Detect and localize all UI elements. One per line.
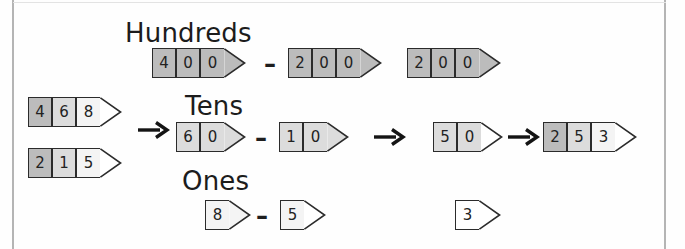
page-edge-right [664, 0, 666, 249]
card-cells: 2 0 0 [288, 48, 360, 78]
label-hundreds: Hundreds [125, 20, 252, 46]
digit-cell: 5 [567, 122, 591, 152]
card-hundreds-200: 2 0 0 [288, 48, 382, 78]
card-cells: 8 [205, 200, 229, 230]
arrow-split-icon [136, 118, 170, 142]
digit-cell: 0 [431, 48, 455, 78]
digit-cell: 8 [205, 200, 229, 230]
digit-cell: 0 [336, 48, 360, 78]
digit-cell: 5 [433, 122, 457, 152]
digit-cell: 6 [176, 122, 200, 152]
digit-cell: 1 [52, 148, 76, 178]
digit-cell: 5 [76, 148, 100, 178]
digit-cell: 0 [455, 48, 479, 78]
digit-cell: 0 [200, 122, 224, 152]
card-ones-8: 8 [205, 200, 251, 230]
digit-cell: 2 [543, 122, 567, 152]
digit-cell: 4 [152, 48, 176, 78]
card-arrow-tip [100, 148, 122, 178]
card-arrow-tip [224, 48, 246, 78]
card-subtrahend-215: 2 1 5 [28, 148, 122, 178]
card-cells: 4 0 0 [152, 48, 224, 78]
digit-cell: 5 [280, 200, 304, 230]
digit-cell: 0 [303, 122, 327, 152]
card-arrow-tip [100, 97, 122, 127]
page-edge-top [13, 2, 666, 3]
card-tens-10: 1 0 [279, 122, 349, 152]
digit-cell: 8 [76, 97, 100, 127]
digit-cell: 2 [407, 48, 431, 78]
card-cells: 4 6 8 [28, 97, 100, 127]
digit-cell: 1 [279, 122, 303, 152]
operator-minus-hundreds: – [264, 52, 276, 76]
card-arrow-tip [360, 48, 382, 78]
card-cells: 1 0 [279, 122, 327, 152]
card-hundreds-400: 4 0 0 [152, 48, 246, 78]
operator-minus-ones: – [256, 204, 268, 228]
card-tens-result-50: 5 0 [433, 122, 503, 152]
card-arrow-tip [304, 200, 326, 230]
card-arrow-tip [229, 200, 251, 230]
card-ones-result-3: 3 [455, 200, 501, 230]
card-tens-60: 6 0 [176, 122, 246, 152]
digit-cell: 2 [288, 48, 312, 78]
place-value-subtraction-diagram: Hundreds Tens Ones 4 6 8 2 1 5 4 [0, 0, 685, 249]
arrow-tens-to-result-icon [372, 125, 406, 149]
digit-cell: 3 [591, 122, 615, 152]
digit-cell: 6 [52, 97, 76, 127]
label-ones: Ones [182, 168, 249, 194]
digit-cell: 0 [457, 122, 481, 152]
card-arrow-tip [481, 122, 503, 152]
card-arrow-tip [615, 122, 637, 152]
card-cells: 2 5 3 [543, 122, 615, 152]
card-cells: 6 0 [176, 122, 224, 152]
digit-cell: 3 [455, 200, 479, 230]
card-final-answer-253: 2 5 3 [543, 122, 637, 152]
digit-cell: 4 [28, 97, 52, 127]
card-arrow-tip [224, 122, 246, 152]
card-cells: 2 0 0 [407, 48, 479, 78]
arrow-combine-icon [506, 125, 540, 149]
card-arrow-tip [479, 200, 501, 230]
card-ones-5: 5 [280, 200, 326, 230]
card-cells: 5 [280, 200, 304, 230]
digit-cell: 2 [28, 148, 52, 178]
digit-cell: 0 [312, 48, 336, 78]
card-cells: 5 0 [433, 122, 481, 152]
label-tens: Tens [185, 93, 243, 119]
card-hundreds-result-200: 2 0 0 [407, 48, 501, 78]
card-cells: 3 [455, 200, 479, 230]
digit-cell: 0 [200, 48, 224, 78]
card-cells: 2 1 5 [28, 148, 100, 178]
card-arrow-tip [327, 122, 349, 152]
card-minuend-468: 4 6 8 [28, 97, 122, 127]
page-edge-left [12, 0, 14, 249]
operator-minus-tens: – [255, 126, 267, 150]
card-arrow-tip [479, 48, 501, 78]
digit-cell: 0 [176, 48, 200, 78]
